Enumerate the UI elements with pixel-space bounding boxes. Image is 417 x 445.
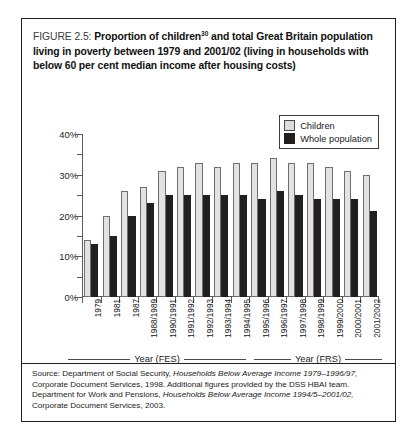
bar-whole-population — [240, 195, 247, 297]
legend-item-whole-population: Whole population — [284, 132, 372, 145]
x-axis-label-14: 2000/2001 — [354, 299, 363, 338]
source-line4: Corporate Document Services, 2003. — [32, 401, 165, 410]
bar-children — [233, 163, 240, 297]
bar-children — [84, 240, 91, 297]
bar-children — [288, 163, 295, 297]
legend-item-children: Children — [284, 119, 372, 132]
bar-group — [138, 134, 157, 297]
bar-whole-population — [184, 195, 191, 297]
bar-children — [177, 167, 184, 297]
bar-group — [101, 134, 120, 297]
source-line1-italic: Households Below Average Income 1979–199… — [173, 369, 357, 378]
bar-group — [212, 134, 231, 297]
caption-rule-left — [68, 359, 130, 360]
chart-plot-area: Children Whole population 0%10%20%30%40%… — [22, 94, 397, 339]
bar-whole-population — [128, 216, 135, 298]
bar-whole-population — [351, 199, 358, 297]
x-axis-label-2: 1987 — [132, 299, 141, 317]
bar-children — [103, 216, 110, 298]
x-axis-label-6: 1992/1993 — [206, 299, 215, 338]
figure-title: FIGURE 2.5: Proportion of children30 and… — [33, 27, 385, 74]
x-axis-label-0: 1979 — [94, 299, 103, 317]
x-axis-label-8: 1994/1995 — [243, 299, 252, 338]
bar-children — [140, 187, 147, 297]
x-axis-label-7: 1993/1994 — [224, 299, 233, 338]
legend-swatch-whole-population-icon — [284, 133, 295, 144]
bar-group — [342, 134, 361, 297]
bar-group — [286, 134, 305, 297]
source-line3-italic: Households Below Average Income 1994/5–2… — [163, 390, 354, 399]
source-line1a: Source: Department of Social Security, — [32, 369, 173, 378]
y-axis-labels: 0%10%20%30%40% — [36, 134, 78, 297]
bar-whole-population — [314, 199, 321, 297]
source-note: Source: Department of Social Security, H… — [32, 369, 384, 411]
bar-children — [270, 158, 277, 297]
figure-title-part1: Proportion of children — [94, 31, 201, 42]
bar-whole-population — [147, 203, 154, 297]
bar-whole-population — [333, 199, 340, 297]
bar-whole-population — [370, 211, 377, 297]
bar-whole-population — [166, 195, 173, 297]
bar-whole-population — [258, 199, 265, 297]
figure-container: FIGURE 2.5: Proportion of children30 and… — [21, 18, 396, 422]
bar-whole-population — [91, 244, 98, 297]
bar-group — [323, 134, 342, 297]
chart-legend: Children Whole population — [279, 115, 379, 149]
bar-whole-population — [110, 236, 117, 297]
bar-group — [193, 134, 212, 297]
bar-group — [360, 134, 379, 297]
y-tick-10 — [75, 256, 82, 257]
bar-children — [251, 163, 258, 297]
y-tick-20 — [75, 216, 82, 217]
legend-swatch-children-icon — [284, 120, 295, 131]
caption-rule-right-2 — [345, 359, 382, 360]
x-axis-label-15: 2001/2002 — [373, 299, 382, 338]
x-axis-label-4: 1990/1991 — [169, 299, 178, 338]
bar-children — [307, 163, 314, 297]
bar-children — [363, 175, 370, 297]
bar-whole-population — [221, 195, 228, 297]
bar-children — [195, 163, 202, 297]
bar-children — [214, 167, 221, 297]
bar-group — [268, 134, 287, 297]
bar-series-container — [82, 134, 379, 297]
bar-whole-population — [203, 195, 210, 297]
x-axis-label-1: 1981 — [113, 299, 122, 317]
x-axis-label-12: 1998/1999 — [317, 299, 326, 338]
bar-group — [305, 134, 324, 297]
bar-children — [158, 171, 165, 297]
bar-children — [325, 167, 332, 297]
figure-number: FIGURE 2.5: — [33, 31, 91, 42]
y-tick-40 — [75, 134, 82, 135]
x-axis-labels: 1979198119871988/19891990/19911991/19921… — [82, 299, 379, 351]
x-axis-label-3: 1988/1989 — [150, 299, 159, 338]
x-axis-label-5: 1991/1992 — [187, 299, 196, 338]
bar-group — [175, 134, 194, 297]
source-divider — [22, 363, 395, 364]
bar-whole-population — [277, 191, 284, 297]
caption-rule-right — [184, 359, 246, 360]
bar-children — [344, 171, 351, 297]
bar-group — [82, 134, 101, 297]
bar-children — [121, 191, 128, 297]
bar-group — [156, 134, 175, 297]
caption-rule-left-2 — [254, 359, 291, 360]
chart-axes — [82, 134, 379, 297]
legend-label-whole-population: Whole population — [300, 133, 372, 145]
y-tick-30 — [75, 175, 82, 176]
y-tick-0 — [75, 297, 82, 298]
x-axis-label-9: 1995/1996 — [262, 299, 271, 338]
legend-label-children: Children — [300, 120, 335, 132]
x-axis-label-10: 1996/1997 — [280, 299, 289, 338]
x-axis-label-11: 1997/1998 — [299, 299, 308, 338]
bar-whole-population — [295, 195, 302, 297]
bar-group — [249, 134, 268, 297]
bar-group — [119, 134, 138, 297]
x-axis-label-13: 1999/2000 — [336, 299, 345, 338]
bar-group — [231, 134, 250, 297]
